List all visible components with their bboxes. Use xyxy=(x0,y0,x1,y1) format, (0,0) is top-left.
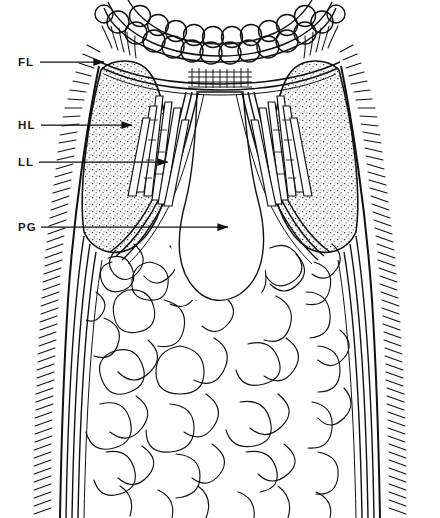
anatomical-diagram: FL HL LL PG xyxy=(0,0,440,518)
label-PG: PG xyxy=(18,221,37,233)
label-FL: FL xyxy=(18,56,34,68)
label-LL: LL xyxy=(18,156,34,168)
figure-root: FL HL LL PG xyxy=(0,0,440,518)
label-HL: HL xyxy=(18,119,36,131)
